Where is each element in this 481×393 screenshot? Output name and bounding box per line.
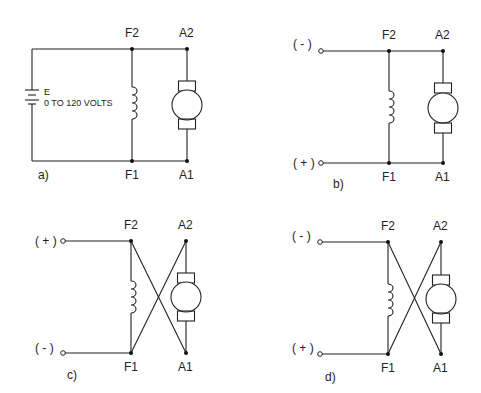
- armature-motor-icon: [172, 81, 202, 129]
- junction-f2: [387, 49, 391, 53]
- junction-a1: [184, 351, 188, 355]
- label-f2: F2: [381, 219, 395, 233]
- label-f2: F2: [382, 28, 396, 42]
- junction-f1: [130, 159, 134, 163]
- field-coil-icon: [389, 91, 394, 123]
- caption-d: d): [325, 370, 336, 384]
- panel-d: ( - ) ( + ) F2 A2 F1 A1 d): [292, 219, 456, 384]
- field-coil-icon: [131, 281, 136, 313]
- junction-a2: [184, 239, 188, 243]
- junction-a2: [441, 49, 445, 53]
- terminal-top[interactable]: [319, 49, 324, 54]
- circuit-diagram: E 0 TO 120 VOLTS F2 A2 F1 A1 a) ( - ) ( …: [0, 0, 481, 393]
- label-a1: A1: [435, 170, 450, 184]
- terminal-bottom-polarity: ( + ): [292, 341, 314, 355]
- panel-c: ( + ) ( - ) F2 A2 F1 A1 c): [35, 218, 201, 382]
- junction-a2: [185, 47, 189, 51]
- terminal-bottom[interactable]: [319, 161, 324, 166]
- caption-a: a): [38, 168, 49, 182]
- battery-label: E: [44, 87, 50, 97]
- label-a2: A2: [179, 26, 194, 40]
- terminal-bottom-polarity: ( + ): [293, 156, 315, 170]
- armature-motor-icon: [426, 275, 456, 323]
- panel-b: ( - ) ( + ) F2 A2 F1 A1 b): [293, 28, 458, 191]
- terminal-bottom-polarity: ( - ): [35, 341, 54, 355]
- caption-b: b): [333, 177, 344, 191]
- terminal-top-polarity: ( + ): [35, 234, 57, 248]
- junction-f1: [387, 161, 391, 165]
- battery-rating: 0 TO 120 VOLTS: [44, 98, 113, 108]
- junction-f2: [129, 239, 133, 243]
- label-f1: F1: [125, 168, 139, 182]
- label-f2: F2: [125, 26, 139, 40]
- junction-a1: [441, 161, 445, 165]
- junction-f2: [386, 240, 390, 244]
- field-coil-icon: [388, 284, 393, 316]
- terminal-top[interactable]: [318, 240, 323, 245]
- junction-f2: [130, 47, 134, 51]
- caption-c: c): [67, 368, 77, 382]
- terminal-bottom[interactable]: [61, 351, 66, 356]
- junction-f1: [129, 351, 133, 355]
- terminal-top-polarity: ( - ): [292, 229, 311, 243]
- label-a2: A2: [433, 219, 448, 233]
- armature-motor-icon: [428, 83, 458, 133]
- armature-motor-icon: [171, 273, 201, 321]
- junction-a1: [185, 159, 189, 163]
- label-a2: A2: [178, 218, 193, 232]
- junction-a1: [439, 352, 443, 356]
- label-a1: A1: [433, 361, 448, 375]
- field-coil-icon: [132, 87, 137, 119]
- terminal-top[interactable]: [61, 239, 66, 244]
- label-f1: F1: [382, 170, 396, 184]
- label-a1: A1: [179, 168, 194, 182]
- label-a2: A2: [435, 28, 450, 42]
- label-f2: F2: [124, 218, 138, 232]
- label-f1: F1: [124, 360, 138, 374]
- label-a1: A1: [178, 360, 193, 374]
- label-f1: F1: [381, 361, 395, 375]
- junction-f1: [386, 352, 390, 356]
- junction-a2: [439, 240, 443, 244]
- terminal-bottom[interactable]: [318, 352, 323, 357]
- panel-a: E 0 TO 120 VOLTS F2 A2 F1 A1 a): [25, 26, 202, 182]
- battery-icon: [25, 90, 39, 104]
- terminal-top-polarity: ( - ): [293, 37, 312, 51]
